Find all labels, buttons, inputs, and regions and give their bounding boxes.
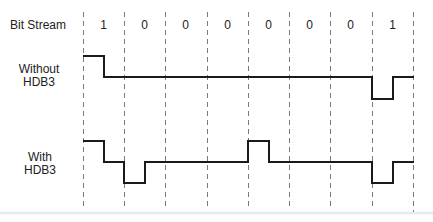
without-hdb3-waveform [83, 56, 414, 99]
hdb3-timing-diagram: Bit Stream Without HDB3 With HDB3 1 0 0 … [0, 0, 433, 222]
scan-artifact-band [0, 211, 433, 215]
waveform-canvas [0, 0, 433, 222]
